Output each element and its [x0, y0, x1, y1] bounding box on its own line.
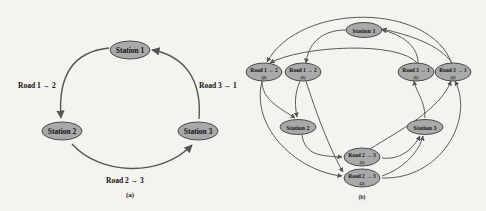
svg-text:(1): (1) — [359, 160, 365, 165]
svg-text:(2): (2) — [261, 75, 267, 80]
node-b-station-2: Station 2 — [280, 120, 316, 135]
node-station-1: Station 1 — [110, 41, 150, 59]
svg-text:Station 3: Station 3 — [414, 125, 437, 131]
edge-r12-2-to-s2 — [262, 81, 295, 118]
edge-s3-to-r31-1 — [414, 81, 425, 118]
label-road-1-2: Road 1 → 2 — [18, 81, 56, 90]
edge-r23-1-to-s3 — [382, 136, 420, 158]
svg-text:Road 2 → 3: Road 2 → 3 — [348, 173, 376, 179]
edge-r31-1-to-s1 — [382, 30, 418, 63]
svg-text:Station 3: Station 3 — [184, 127, 213, 136]
label-road-2-3: Road 2 → 3 — [106, 176, 144, 185]
edge-s1-to-r12-1 — [306, 30, 346, 63]
node-road-1-2-copy-2: Road 1 → 2 (2) — [246, 63, 282, 81]
diagram-a: Station 1 Station 2 Station 3 Road 1 → 2… — [18, 41, 237, 199]
node-road-2-3-copy-2: Road 2 → 3 (2) — [344, 169, 380, 187]
svg-text:(1): (1) — [300, 75, 306, 80]
node-road-3-1-copy-1: Road 3 → 1 (1) — [398, 63, 434, 81]
edge-r31-1-to-r12-2 — [270, 48, 418, 64]
node-station-2: Station 2 — [42, 122, 82, 140]
caption-b: (b) — [359, 194, 366, 201]
node-b-station-1: Station 1 — [346, 23, 382, 38]
svg-text:Road 1 → 2: Road 1 → 2 — [289, 67, 317, 73]
node-b-station-3: Station 3 — [407, 120, 443, 135]
caption-a: (a) — [126, 191, 135, 199]
node-road-3-1-copy-2: Road 3 → 1 (2) — [435, 63, 471, 81]
edge-road-3-1 — [152, 50, 199, 119]
diagram-canvas: Station 1 Station 2 Station 3 Road 1 → 2… — [0, 0, 486, 211]
svg-text:Road 3 → 1: Road 3 → 1 — [402, 67, 430, 73]
node-station-3: Station 3 — [178, 122, 218, 140]
svg-text:Road 1 → 2: Road 1 → 2 — [250, 67, 278, 73]
edge-r12-1-to-s2 — [295, 81, 300, 117]
edge-road-2-3 — [72, 144, 192, 169]
svg-text:Station 1: Station 1 — [116, 46, 145, 55]
diagram-b: Station 1 Station 2 Station 3 Road 1 → 2… — [246, 17, 471, 201]
svg-text:Station 2: Station 2 — [48, 127, 77, 136]
svg-text:(2): (2) — [359, 181, 365, 186]
node-road-1-2-copy-1: Road 1 → 2 (1) — [285, 63, 321, 81]
svg-text:Road 3 → 1: Road 3 → 1 — [439, 67, 467, 73]
svg-text:Road 2 → 3: Road 2 → 3 — [348, 152, 376, 158]
svg-text:Station 1: Station 1 — [353, 28, 376, 34]
svg-text:(1): (1) — [413, 75, 419, 80]
svg-text:Station 2: Station 2 — [287, 125, 310, 131]
node-road-2-3-copy-1: Road 2 → 3 (1) — [344, 148, 380, 166]
svg-text:(2): (2) — [450, 75, 456, 80]
edge-s2-to-r23-1 — [302, 135, 342, 157]
edge-road-1-2 — [61, 48, 109, 118]
edge-r23-1-to-r31-2 — [370, 81, 451, 149]
edge-r23-2-to-s3 — [382, 136, 423, 176]
label-road-3-1: Road 3 → 1 — [199, 81, 237, 90]
